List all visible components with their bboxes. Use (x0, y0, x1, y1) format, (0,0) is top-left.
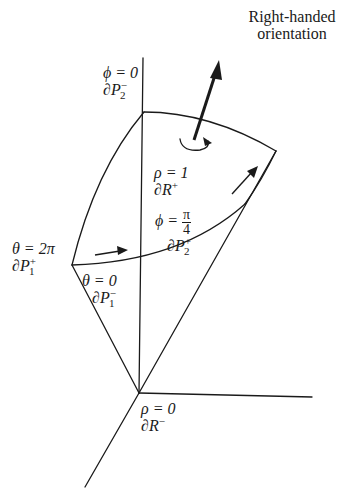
theta0-face: ∂P (92, 289, 110, 306)
orientation-title: Right-handed orientation (227, 8, 355, 42)
top-arc-edge (144, 112, 276, 151)
title-line-1: Right-handed (227, 8, 355, 25)
y-axis (139, 393, 312, 397)
label-theta-0: θ = 0 ∂P−1 (82, 272, 117, 308)
theta2pi-face: ∂P (12, 257, 30, 274)
rho1-face: ∂R (154, 181, 172, 198)
normal-arrow-shaft (194, 72, 216, 140)
direction-arrow-right-shaft (232, 172, 252, 194)
label-phi-pi-over-4: ϕ = π4 ∂P+2 (155, 208, 191, 256)
z-axis (139, 58, 143, 393)
direction-arrow-left-shaft (95, 251, 120, 255)
x-axis (85, 393, 139, 487)
label-phi-0: ϕ = 0 ∂P−2 (103, 64, 138, 100)
left-arc-edge (72, 112, 144, 265)
phipi4-equation-lhs: ϕ = (155, 212, 178, 229)
title-line-2: orientation (227, 25, 355, 42)
direction-arrow-left-head-icon (117, 246, 128, 255)
phipi4-face: ∂P (167, 237, 185, 254)
pi-over-4-fraction: π4 (182, 208, 191, 237)
phi0-face: ∂P (103, 81, 121, 98)
rotation-arrowhead-icon (203, 137, 212, 146)
label-rho-1: ρ = 1 ∂R+ (154, 164, 188, 200)
normal-arrowhead-icon (210, 60, 222, 80)
label-theta-2pi: θ = 2π ∂P+1 (12, 240, 55, 276)
label-rho-0: ρ = 0 ∂R− (141, 400, 175, 436)
rho0-face: ∂R (141, 417, 159, 434)
